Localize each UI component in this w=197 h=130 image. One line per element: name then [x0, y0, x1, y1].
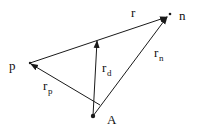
point-A-dot — [91, 114, 95, 118]
vector-r-d — [93, 41, 97, 116]
label-point-p: p — [9, 58, 16, 73]
svg-text:n: n — [159, 53, 164, 63]
vector-r — [30, 17, 167, 63]
point-p-dot — [29, 62, 31, 64]
label-point-A: A — [107, 112, 117, 127]
label-r-d: r d — [102, 60, 112, 78]
label-point-n: n — [179, 8, 186, 23]
vector-diagram: r n p A r n r d r p — [0, 0, 197, 130]
point-n-dot — [169, 13, 172, 16]
label-r-n: r n — [154, 45, 164, 63]
label-r: r — [131, 5, 136, 20]
svg-text:p: p — [48, 86, 53, 96]
label-r-p: r p — [43, 78, 53, 96]
vector-r-p — [31, 64, 100, 105]
svg-text:d: d — [107, 68, 112, 78]
